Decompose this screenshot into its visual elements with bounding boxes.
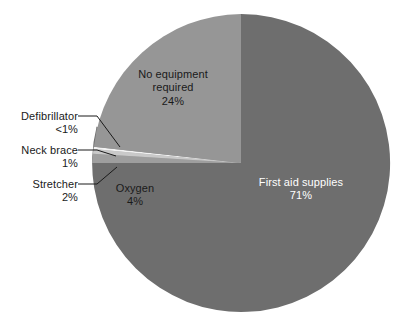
slice-label-no-equipment-line1: No equipment (118, 68, 228, 81)
slice-label-defibrillator: Defibrillator <1% (21, 110, 78, 137)
slice-label-oxygen: Oxygen 4% (95, 182, 175, 209)
pie-chart-figure: Defibrillator <1% Neck brace 1% Stretche… (0, 0, 400, 328)
slice-label-oxygen-name: Oxygen (95, 182, 175, 195)
slice-label-first-aid-name: First aid supplies (236, 176, 366, 189)
slice-label-defibrillator-name: Defibrillator (21, 110, 78, 123)
slice-label-oxygen-value: 4% (95, 195, 175, 208)
slice-label-neck-brace-value: 1% (21, 157, 78, 170)
slice-label-stretcher-name: Stretcher (32, 178, 78, 191)
slice-label-no-equipment-line2: required (118, 81, 228, 94)
slice-label-first-aid-supplies: First aid supplies 71% (236, 176, 366, 203)
slice-label-neck-brace: Neck brace 1% (21, 144, 78, 171)
slice-label-stretcher: Stretcher 2% (32, 178, 78, 205)
slice-label-stretcher-value: 2% (32, 191, 78, 204)
slice-label-first-aid-value: 71% (236, 189, 366, 202)
slice-label-defibrillator-value: <1% (21, 123, 78, 136)
slice-label-no-equipment-value: 24% (118, 95, 228, 108)
slice-label-no-equipment-required: No equipment required 24% (118, 68, 228, 108)
slice-label-neck-brace-name: Neck brace (21, 144, 78, 157)
